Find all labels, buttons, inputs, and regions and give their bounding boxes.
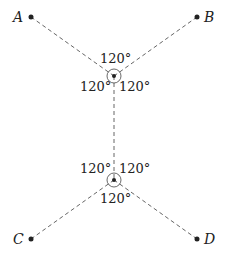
edge-c-s2 <box>31 180 114 239</box>
angle-label-s2-bottom: 120° <box>100 192 131 205</box>
steiner-point-2 <box>112 178 116 182</box>
edge-b-s1 <box>114 17 197 76</box>
angle-label-s1-top: 120° <box>100 52 131 65</box>
point-b <box>195 15 200 20</box>
point-d <box>195 237 200 242</box>
angle-label-s2-right: 120° <box>119 162 150 175</box>
edge-a-s1 <box>31 17 114 76</box>
diagram-canvas <box>0 0 232 258</box>
label-d: D <box>204 232 215 246</box>
angle-label-s1-right: 120° <box>119 80 150 93</box>
steiner-point-1 <box>112 74 116 78</box>
steiner-tree-diagram: A B C D 120° 120° 120° 120° 120° 120° <box>0 0 232 258</box>
label-a: A <box>13 10 23 24</box>
angle-label-s2-left: 120° <box>80 162 111 175</box>
point-c <box>29 237 34 242</box>
point-a <box>29 15 34 20</box>
label-b: B <box>204 10 214 24</box>
label-c: C <box>13 232 24 246</box>
angle-label-s1-left: 120° <box>80 80 111 93</box>
edge-d-s2 <box>114 180 197 239</box>
